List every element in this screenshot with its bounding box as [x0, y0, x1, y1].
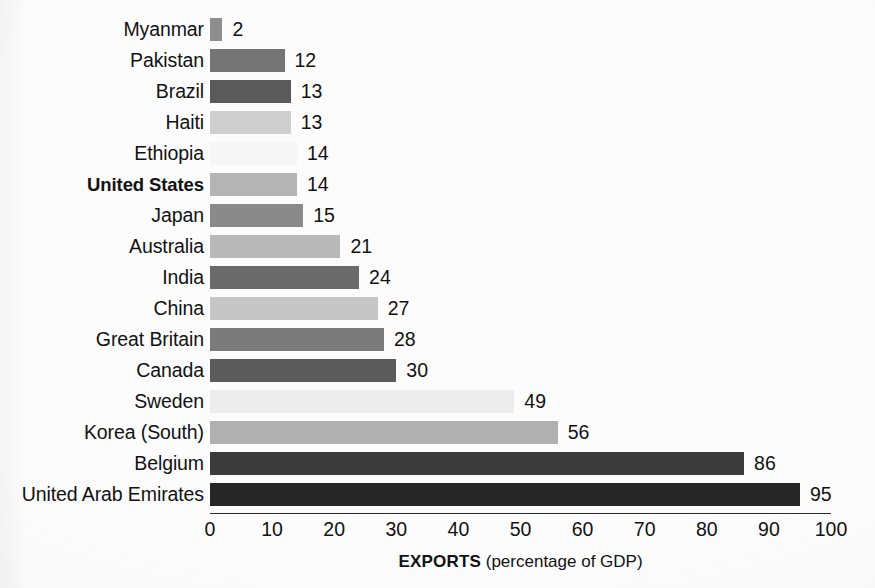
category-label: Canada [0, 355, 204, 386]
category-label: China [0, 293, 204, 324]
bar-value-label: 14 [307, 138, 329, 169]
bar-value-label: 24 [369, 262, 391, 293]
bar-row: United Arab Emirates95 [0, 479, 875, 510]
bar-row: India24 [0, 262, 875, 293]
x-tick-label: 100 [801, 516, 861, 542]
x-tick-label: 10 [242, 516, 302, 542]
bar-value-label: 14 [307, 169, 329, 200]
category-label: Korea (South) [0, 417, 204, 448]
bar [210, 359, 396, 382]
bar-value-label: 56 [568, 417, 590, 448]
x-tick-label: 20 [304, 516, 364, 542]
bar-row: Japan15 [0, 200, 875, 231]
category-label: United Arab Emirates [0, 479, 204, 510]
bar-row: Australia21 [0, 231, 875, 262]
bar-row: Ethiopia14 [0, 138, 875, 169]
chart-figure: Myanmar2Pakistan12Brazil13Haiti13Ethiopi… [0, 0, 875, 588]
bar-row: Brazil13 [0, 76, 875, 107]
bar [210, 328, 384, 351]
category-label: Australia [0, 231, 204, 262]
x-tick-label: 70 [615, 516, 675, 542]
category-label: Myanmar [0, 14, 204, 45]
x-axis-title: EXPORTS (percentage of GDP) [210, 552, 831, 572]
bar [210, 18, 222, 41]
bar-value-label: 28 [394, 324, 416, 355]
bar-value-label: 27 [388, 293, 410, 324]
bar [210, 390, 514, 413]
bar [210, 173, 297, 196]
x-tick-label: 50 [491, 516, 551, 542]
category-label: Brazil [0, 76, 204, 107]
x-axis-line [210, 513, 831, 514]
x-tick-label: 0 [180, 516, 240, 542]
bar-row: China27 [0, 293, 875, 324]
bar-row: Canada30 [0, 355, 875, 386]
bar-row: Sweden49 [0, 386, 875, 417]
category-label: Haiti [0, 107, 204, 138]
bar-row: Belgium86 [0, 448, 875, 479]
category-label: Pakistan [0, 45, 204, 76]
bar-row: Great Britain28 [0, 324, 875, 355]
x-axis-title-bold: EXPORTS [398, 552, 481, 571]
category-label: Japan [0, 200, 204, 231]
bar-value-label: 49 [524, 386, 546, 417]
category-label: Great Britain [0, 324, 204, 355]
bar-value-label: 12 [295, 45, 317, 76]
bar [210, 142, 297, 165]
bar [210, 266, 359, 289]
bar [210, 80, 291, 103]
bar [210, 421, 558, 444]
category-label: Ethiopia [0, 138, 204, 169]
x-tick-label: 40 [428, 516, 488, 542]
x-tick-label: 30 [366, 516, 426, 542]
x-tick-label: 80 [677, 516, 737, 542]
bar [210, 235, 340, 258]
bar-row: Myanmar2 [0, 14, 875, 45]
plot-area: Myanmar2Pakistan12Brazil13Haiti13Ethiopi… [0, 0, 875, 588]
bar-row: Pakistan12 [0, 45, 875, 76]
bar-value-label: 15 [313, 200, 335, 231]
bar-row: Korea (South)56 [0, 417, 875, 448]
bar-value-label: 2 [232, 14, 243, 45]
bar [210, 204, 303, 227]
bar-value-label: 30 [406, 355, 428, 386]
bar-value-label: 13 [301, 107, 323, 138]
bar-row: Haiti13 [0, 107, 875, 138]
x-tick-label: 90 [739, 516, 799, 542]
bar-value-label: 13 [301, 76, 323, 107]
bar-row: United States14 [0, 169, 875, 200]
bar [210, 452, 744, 475]
category-label: Belgium [0, 448, 204, 479]
category-label: Sweden [0, 386, 204, 417]
bar-value-label: 86 [754, 448, 776, 479]
bar [210, 49, 285, 72]
x-tick-label: 60 [553, 516, 613, 542]
category-label: United States [0, 169, 204, 200]
bar [210, 483, 800, 506]
bar [210, 297, 378, 320]
category-label: India [0, 262, 204, 293]
x-axis-title-rest: (percentage of GDP) [481, 552, 643, 571]
bar-value-label: 95 [810, 479, 832, 510]
bar [210, 111, 291, 134]
bar-value-label: 21 [350, 231, 372, 262]
